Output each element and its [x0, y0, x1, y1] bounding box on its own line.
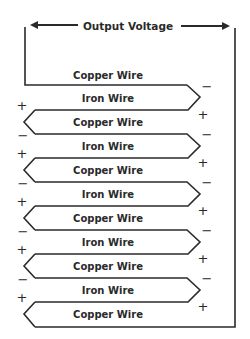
- plus-sign: +: [198, 299, 209, 314]
- wire-label: Copper Wire: [73, 213, 143, 224]
- left-polarity-signs: + − + − + − + − +: [17, 98, 29, 305]
- minus-sign: −: [18, 272, 29, 287]
- thermopile-diagram: Output Voltage Copper Wire Iron Wire Cop…: [0, 0, 250, 339]
- minus-sign: −: [18, 128, 29, 143]
- minus-sign: −: [202, 127, 213, 142]
- wire-label: Copper Wire: [73, 165, 143, 176]
- minus-sign: −: [18, 224, 29, 239]
- wire-label: Iron Wire: [82, 141, 135, 152]
- wire-labels: Copper Wire Iron Wire Copper Wire Iron W…: [73, 70, 143, 320]
- minus-sign: −: [202, 271, 213, 286]
- plus-sign: +: [198, 155, 209, 170]
- right-polarity-signs: − + − + − + − + − +: [198, 79, 213, 314]
- wire-label: Copper Wire: [73, 261, 143, 272]
- minus-sign: −: [202, 79, 213, 94]
- wire-label: Copper Wire: [73, 117, 143, 128]
- plus-sign: +: [17, 146, 28, 161]
- wire-label: Iron Wire: [82, 189, 135, 200]
- minus-sign: −: [202, 175, 213, 190]
- wire-label: Iron Wire: [82, 93, 135, 104]
- minus-sign: −: [202, 223, 213, 238]
- plus-sign: +: [198, 251, 209, 266]
- wire-label: Iron Wire: [82, 237, 135, 248]
- plus-sign: +: [17, 242, 28, 257]
- minus-sign: −: [18, 176, 29, 191]
- plus-sign: +: [198, 107, 209, 122]
- junction-left-5: [24, 302, 35, 327]
- plus-sign: +: [17, 290, 28, 305]
- plus-sign: +: [17, 194, 28, 209]
- plus-sign: +: [198, 203, 209, 218]
- output-voltage-title: Output Voltage: [83, 20, 173, 32]
- wire-label: Copper Wire: [73, 70, 143, 81]
- plus-sign: +: [17, 98, 28, 113]
- wire-label: Copper Wire: [73, 309, 143, 320]
- wire-label: Iron Wire: [82, 285, 135, 296]
